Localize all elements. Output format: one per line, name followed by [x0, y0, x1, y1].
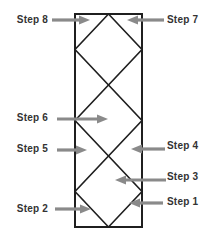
step-7-label: Step 7 [167, 14, 198, 25]
diagram-canvas: Step 8 Step 7 Step 6 Step 5 Step 4 [0, 0, 216, 246]
step-7-arrow-head [127, 16, 138, 25]
step-1-label: Step 1 [167, 196, 198, 207]
step-8-arrow-head [79, 16, 90, 25]
step-4-label: Step 4 [167, 140, 198, 151]
step-5-annotation: Step 5 [17, 143, 87, 155]
step-6-arrow-head [97, 115, 108, 124]
step-2-annotation: Step 2 [17, 203, 91, 214]
step-8-label: Step 8 [17, 14, 48, 25]
step-5-arrow-head [76, 146, 87, 155]
step-3-arrow-head [115, 176, 126, 185]
step-8-annotation: Step 8 [17, 14, 90, 25]
step-5-label: Step 5 [17, 143, 48, 154]
step-3-annotation: Step 3 [115, 171, 198, 185]
step-2-label: Step 2 [17, 203, 48, 214]
step-6-label: Step 6 [17, 112, 48, 123]
step-1-annotation: Step 1 [129, 196, 198, 208]
step-4-arrow-head [131, 145, 142, 154]
step-6-annotation: Step 6 [17, 112, 108, 124]
step-3-label: Step 3 [167, 171, 198, 182]
step-7-annotation: Step 7 [127, 14, 198, 25]
process-diagram: Step 8 Step 7 Step 6 Step 5 Step 4 [0, 0, 216, 246]
